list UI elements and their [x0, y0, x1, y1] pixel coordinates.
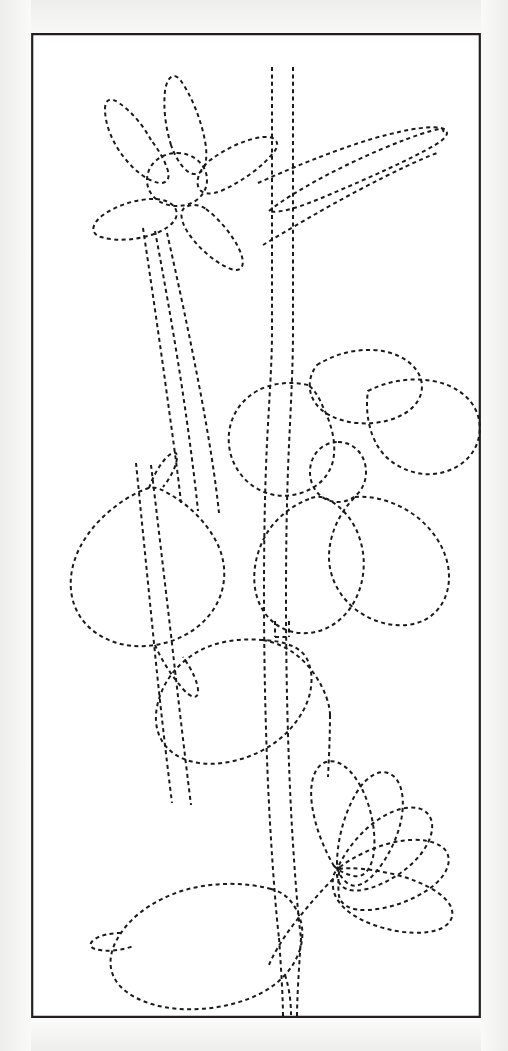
tulip-leaf-vein [328, 715, 330, 777]
middle-flower-petal-left [229, 383, 335, 496]
paper-bottom-shading [0, 1019, 508, 1051]
motif-top-flower [93, 76, 277, 270]
stem-branch-c [167, 233, 219, 513]
top-flower-petal-right [198, 137, 278, 194]
paper-left-shading [0, 0, 31, 1051]
top-flower-petal-upper-mid [164, 76, 206, 174]
paper-right-shading [481, 0, 508, 1051]
tulip-leaf-inner [263, 640, 330, 715]
stem-bottom-left [279, 938, 283, 1017]
pattern-frame [31, 33, 481, 1018]
pattern-border-rectangle [32, 34, 480, 1017]
floral-pattern-artwork [31, 33, 481, 1018]
pattern-page: Floral Quilting Stitch Pattern Template [0, 0, 508, 1051]
fan-flower-petal-1 [311, 761, 374, 876]
middle-flower-petal-bottom-right [329, 497, 449, 626]
motif-middle-flower [229, 350, 480, 637]
bottom-leaf-tail [285, 975, 291, 1015]
middle-flower-petal-bottom-left [254, 497, 364, 634]
bottom-leaf-outline [111, 884, 303, 1009]
bottom-leaf-notch [91, 933, 134, 951]
paper-top-shading [0, 0, 508, 34]
stem-main-left [264, 67, 279, 938]
stem-branch-b [155, 231, 198, 511]
narrow-leaf-inner-edge [269, 129, 444, 211]
motif-bottom-leaf [91, 884, 303, 1015]
motif-stems [136, 67, 301, 1017]
motif-upper-narrow-leaf [258, 127, 447, 245]
top-flower-petal-lower-right [181, 205, 242, 270]
stitch-line-group [71, 67, 480, 1017]
stem-midrib-left [136, 463, 172, 803]
middle-flower-petal-right-upper [367, 379, 480, 474]
top-flower-petal-upper-left [105, 100, 169, 183]
motif-fan-flower [269, 761, 452, 965]
left-leaf-outline [71, 487, 225, 646]
narrow-leaf-lower-edge [263, 153, 437, 245]
middle-flower-center [310, 442, 366, 502]
fan-flower-petal-3 [337, 807, 432, 890]
narrow-leaf-top-edge [258, 127, 447, 211]
top-flower-petal-lower-left [93, 199, 176, 240]
motif-tulip-leaf [156, 639, 330, 777]
